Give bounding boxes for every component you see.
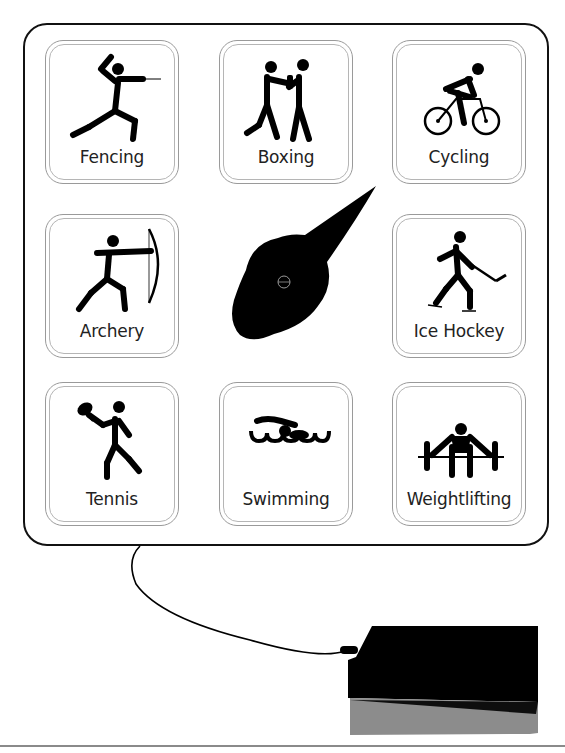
tile-label: Tennis [46, 489, 178, 509]
boxing-pictogram-icon [237, 49, 337, 143]
tile-label: Archery [46, 321, 178, 341]
cycling-pictogram-icon [410, 49, 510, 143]
ice-hockey-pictogram-icon [410, 223, 510, 317]
tile-ice-hockey[interactable]: Ice Hockey [392, 214, 526, 358]
spinner-board: Fencing Boxing [23, 23, 549, 546]
tile-label: Weightlifting [393, 489, 525, 509]
fencing-pictogram-icon [63, 49, 163, 143]
cable [132, 546, 345, 654]
tile-cycling[interactable]: Cycling [392, 40, 526, 184]
tennis-pictogram-icon [63, 391, 163, 485]
tile-archery[interactable]: Archery [45, 214, 179, 358]
tile-boxing[interactable]: Boxing [219, 40, 353, 184]
tile-fencing[interactable]: Fencing [45, 40, 179, 184]
controller-box-icon[interactable] [340, 626, 538, 735]
tile-label: Fencing [46, 147, 178, 167]
tile-label: Swimming [220, 489, 352, 509]
archery-pictogram-icon [63, 223, 163, 317]
tile-label: Cycling [393, 147, 525, 167]
swimming-pictogram-icon [237, 391, 337, 485]
weightlifting-pictogram-icon [410, 391, 510, 485]
floor-line [0, 745, 565, 747]
tile-label: Ice Hockey [393, 321, 525, 341]
tile-tennis[interactable]: Tennis [45, 382, 179, 526]
tile-weightlifting[interactable]: Weightlifting [392, 382, 526, 526]
tile-swimming[interactable]: Swimming [219, 382, 353, 526]
tile-label: Boxing [220, 147, 352, 167]
